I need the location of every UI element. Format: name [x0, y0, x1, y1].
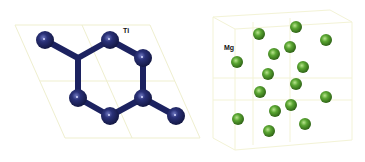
atom-highlight: [108, 114, 110, 116]
mg-lattice-box: [213, 10, 352, 150]
ti-atom: [101, 107, 119, 125]
mg-atoms: [231, 21, 332, 137]
mg-atom: [299, 118, 311, 130]
atom-highlight: [43, 38, 45, 40]
lattice-line: [213, 138, 235, 150]
crystal-structure-diagram: Ti Mg: [0, 0, 365, 162]
mg-atom: [290, 78, 302, 90]
lattice-line: [213, 17, 235, 29]
mg-atom: [290, 21, 302, 33]
ti-atom: [69, 89, 87, 107]
mg-element-label: Mg: [224, 44, 234, 52]
mg-atom: [285, 99, 297, 111]
mg-atom: [253, 28, 265, 40]
mg-structure-panel: Mg: [213, 10, 352, 150]
mg-atom: [232, 113, 244, 125]
ti-element-label: Ti: [123, 27, 129, 34]
lattice-line: [330, 10, 352, 22]
atom-highlight: [141, 56, 143, 58]
ti-atom: [36, 31, 54, 49]
mg-atom: [263, 125, 275, 137]
mg-atom: [269, 105, 281, 117]
ti-atom: [134, 49, 152, 67]
mg-atom: [297, 61, 309, 73]
atom-highlight: [108, 38, 110, 40]
mg-atom: [284, 41, 296, 53]
mg-atom: [231, 56, 243, 68]
mg-atom: [262, 68, 274, 80]
atom-highlight: [141, 96, 143, 98]
mg-atom: [320, 91, 332, 103]
mg-atom: [254, 86, 266, 98]
mg-atom: [268, 48, 280, 60]
ti-bonds: [45, 40, 176, 116]
lattice-line: [213, 10, 330, 17]
atom-highlight: [76, 96, 78, 98]
atom-highlight: [174, 114, 176, 116]
ti-structure-panel: Ti: [15, 25, 200, 138]
ti-atom: [134, 89, 152, 107]
ti-atom: [167, 107, 185, 125]
mg-atom: [320, 34, 332, 46]
ti-atom: [101, 31, 119, 49]
